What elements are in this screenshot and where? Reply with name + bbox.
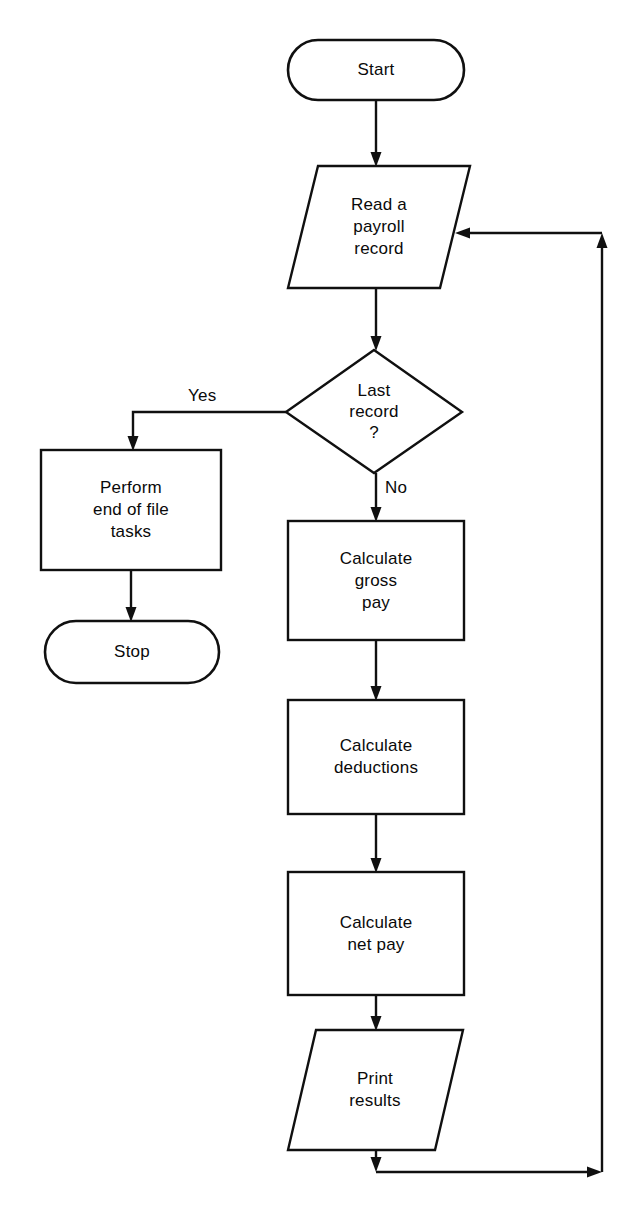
node-print-results[interactable] [288,1030,463,1150]
connector-net-to-print [371,995,382,1031]
node-start[interactable] [288,40,464,100]
node-last-record-decision[interactable] [286,350,462,473]
node-read-record[interactable] [288,166,470,288]
connector-decision-yes [128,412,287,451]
flowchart-canvas: Perform end of file tasks --> Calculate … [0,0,641,1216]
connector-deductions-to-net [371,814,382,873]
edge-label-no: No [385,478,407,498]
node-deductions[interactable] [288,700,464,814]
connector-read-to-decision [371,288,382,351]
connector-gross-to-deductions [371,640,382,701]
node-stop[interactable] [45,621,219,683]
connector-start-to-read [371,100,382,167]
node-net-pay[interactable] [288,872,464,995]
node-eof-tasks[interactable] [41,450,221,570]
connector-decision-no [371,473,382,522]
flowchart-svg: Perform end of file tasks --> Calculate … [0,0,641,1216]
edge-label-yes: Yes [188,386,216,406]
node-gross-pay[interactable] [288,521,464,640]
connector-eof-to-stop [126,570,137,622]
